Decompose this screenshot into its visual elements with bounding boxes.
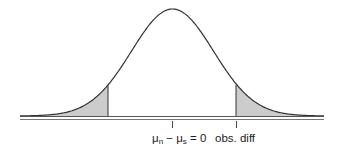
mu-symbol: μ — [152, 132, 159, 144]
equals-zero: = 0 — [187, 132, 207, 144]
obs-diff-label: obs. diff — [215, 132, 255, 144]
left-tail-shaded-region — [20, 85, 108, 116]
normal-curve — [20, 9, 324, 116]
minus-sign: − — [163, 132, 176, 144]
null-value-label: μn − μs = 0 — [152, 132, 206, 146]
right-tail-shaded-region — [236, 84, 324, 116]
mu-symbol: μ — [176, 132, 183, 144]
